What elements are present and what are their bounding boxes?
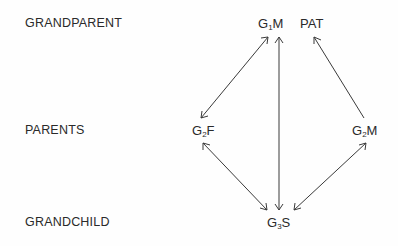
- node-g2f-prefix: G: [192, 123, 202, 138]
- edge-g2m-g3s: [294, 143, 366, 210]
- node-g2m-suffix: M: [367, 123, 378, 138]
- node-g1m-suffix: M: [273, 16, 284, 31]
- edge-g2f-g3s: [203, 143, 267, 210]
- node-pat: PAT: [300, 17, 323, 30]
- node-g2f-suffix: F: [207, 123, 215, 138]
- node-g3s-prefix: G: [267, 215, 277, 230]
- node-g3s-suffix: S: [282, 215, 291, 230]
- edge-g1m-g3s: [275, 37, 283, 210]
- edge-g1m-g2f: [201, 37, 268, 118]
- node-g2m-prefix: G: [352, 123, 362, 138]
- node-g1m-prefix: G: [258, 16, 268, 31]
- node-g1m: G1M: [258, 17, 283, 30]
- node-g3s: G3S: [267, 216, 290, 229]
- edge-g2m-pat: [314, 37, 364, 118]
- node-g2f: G2F: [192, 124, 215, 137]
- node-g2m: G2M: [352, 124, 377, 137]
